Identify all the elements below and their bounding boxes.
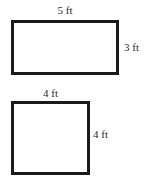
rectangle-height-label: 3 ft (124, 41, 139, 53)
rectangle-width-label: 5 ft (11, 4, 119, 16)
square-shape (11, 101, 90, 175)
figure-canvas: 5 ft 3 ft 4 ft 4 ft (0, 0, 152, 182)
square-height-label: 4 ft (93, 128, 108, 140)
square-width-label: 4 ft (11, 87, 90, 99)
rectangle-shape (11, 20, 119, 75)
